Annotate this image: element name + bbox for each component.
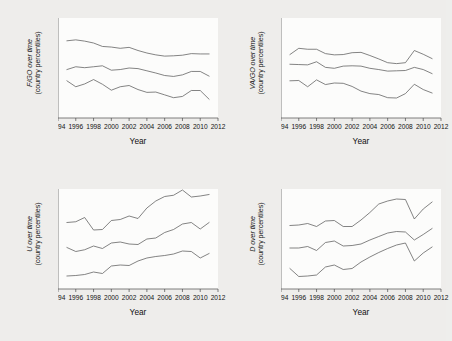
x-tick-label: 2006 bbox=[157, 294, 172, 301]
x-tick-label: 1998 bbox=[86, 294, 101, 301]
chart-panel-d: D over time(country percentiles)1.81.922… bbox=[223, 171, 446, 341]
x-tick-label: 2008 bbox=[175, 294, 190, 301]
x-tick-label: 1996 bbox=[68, 294, 83, 301]
x-tick-label: 2010 bbox=[193, 123, 208, 130]
x-axis-title-va-go: Year bbox=[281, 136, 441, 146]
x-tick-label: 1994 bbox=[58, 123, 66, 130]
x-tick-label: 2008 bbox=[175, 123, 190, 130]
x-axis-title-d: Year bbox=[281, 307, 441, 317]
x-tick-label: 2002 bbox=[345, 123, 360, 130]
x-tick-label: 2004 bbox=[363, 294, 378, 301]
x-tick-label: 1996 bbox=[68, 123, 83, 130]
x-axis-title-f-go: Year bbox=[58, 136, 218, 146]
x-tick-label: 1996 bbox=[291, 294, 306, 301]
x-tick-label: 2002 bbox=[122, 294, 137, 301]
x-tick-label: 1998 bbox=[309, 123, 324, 130]
chart-panel-u: U over time(country percentiles)1.81.922… bbox=[0, 171, 223, 341]
x-tick-label: 1994 bbox=[58, 294, 66, 301]
x-tick-label: 2004 bbox=[140, 294, 155, 301]
y-axis-title-d: D over time(country percentiles) bbox=[249, 179, 265, 289]
x-tick-label: 2010 bbox=[416, 123, 431, 130]
y-axis-title-va-go: VA/GO over time(country percentiles) bbox=[249, 8, 265, 118]
y-axis-title-f-go: F/GO over time(country percentiles) bbox=[26, 8, 42, 118]
y-axis-title-units: (country percentiles) bbox=[34, 179, 42, 289]
x-tick-label: 2008 bbox=[398, 123, 413, 130]
x-tick-label: 2000 bbox=[104, 294, 119, 301]
x-axis-title-u: Year bbox=[58, 307, 218, 317]
y-axis-title-units: (country percentiles) bbox=[257, 179, 265, 289]
chart-panel-va-go: VA/GO over time(country percentiles).42.… bbox=[223, 0, 446, 170]
x-tick-label: 2004 bbox=[140, 123, 155, 130]
plot-area-f-go bbox=[58, 18, 218, 118]
x-tick-label: 1998 bbox=[309, 294, 324, 301]
x-tick-label: 2006 bbox=[380, 294, 395, 301]
x-tick-label: 2006 bbox=[157, 123, 172, 130]
plot-area-u bbox=[58, 189, 218, 289]
plot-area-d bbox=[281, 189, 441, 289]
chart-panel-f-go: F/GO over time(country percentiles).42.4… bbox=[0, 0, 223, 170]
x-tick-label: 2004 bbox=[363, 123, 378, 130]
y-axis-title-units: (country percentiles) bbox=[257, 8, 265, 118]
x-tick-label: 2012 bbox=[434, 294, 449, 301]
x-tick-label: 2012 bbox=[434, 123, 449, 130]
x-tick-label: 2010 bbox=[193, 294, 208, 301]
x-tick-label: 2002 bbox=[345, 294, 360, 301]
x-tick-label: 2006 bbox=[380, 123, 395, 130]
x-tick-label: 1996 bbox=[291, 123, 306, 130]
x-tick-label: 2000 bbox=[327, 123, 342, 130]
y-axis-title-units: (country percentiles) bbox=[34, 8, 42, 118]
x-tick-label: 2000 bbox=[104, 123, 119, 130]
x-tick-label: 2000 bbox=[327, 294, 342, 301]
x-tick-label: 2002 bbox=[122, 123, 137, 130]
y-axis-title-u: U over time(country percentiles) bbox=[26, 179, 42, 289]
x-tick-label: 1994 bbox=[281, 123, 289, 130]
x-tick-label: 2008 bbox=[398, 294, 413, 301]
x-tick-label: 2010 bbox=[416, 294, 431, 301]
x-tick-label: 1998 bbox=[86, 123, 101, 130]
x-tick-label: 1994 bbox=[281, 294, 289, 301]
